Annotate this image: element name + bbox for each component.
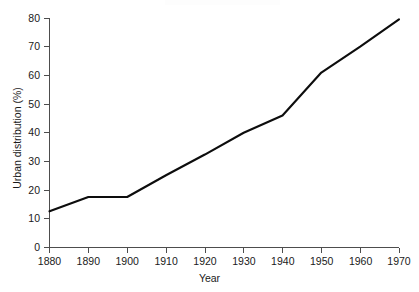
chart-figure: 0 10 20 30 40 50 60 70 80 1880 1890 1900… [0, 0, 419, 292]
y-axis-title: Urban distribution (%) [11, 58, 23, 218]
x-tick-label-1920: 1920 [185, 256, 225, 267]
x-tick-label-1970: 1970 [379, 256, 419, 267]
y-tick-label-0: 0 [14, 242, 40, 253]
x-tick-label-1890: 1890 [68, 256, 108, 267]
x-tick-label-1880: 1880 [30, 256, 70, 267]
x-tick-label-1950: 1950 [302, 256, 342, 267]
x-tick-marks [50, 248, 400, 254]
x-tick-label-1930: 1930 [224, 256, 264, 267]
y-tick-marks [44, 18, 50, 248]
x-axis-title: Year [0, 272, 419, 284]
x-tick-label-1960: 1960 [341, 256, 381, 267]
y-tick-label-80: 80 [14, 13, 40, 24]
urban-distribution-line [50, 19, 400, 211]
x-tick-label-1900: 1900 [107, 256, 147, 267]
x-tick-label-1910: 1910 [146, 256, 186, 267]
x-tick-label-1940: 1940 [263, 256, 303, 267]
line-chart-canvas [0, 0, 419, 292]
y-tick-label-70: 70 [14, 41, 40, 52]
